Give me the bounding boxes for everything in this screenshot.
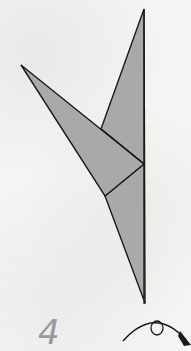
step-number: 4 xyxy=(38,315,60,349)
turn-over-arrow-icon xyxy=(123,321,191,346)
origami-figure xyxy=(0,0,191,351)
diagram-canvas: 4 xyxy=(0,0,191,351)
